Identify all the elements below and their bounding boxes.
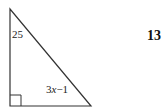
side-label: 3x−1 bbox=[46, 83, 68, 95]
problem-number: 13 bbox=[147, 28, 161, 43]
right-angle-marker bbox=[10, 95, 21, 106]
side-label-const: −1 bbox=[56, 83, 68, 95]
diagram-canvas: 25 3x−1 13 bbox=[0, 0, 167, 109]
angle-label: 25 bbox=[12, 28, 24, 40]
